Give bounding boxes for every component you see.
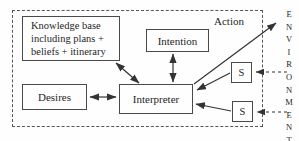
sensor-bottom-label: S (240, 106, 246, 117)
environment-label: ENVIRONMENT (284, 9, 294, 139)
desires-label: Desires (38, 91, 71, 103)
knowledge-base-line1: Knowledge base (31, 19, 101, 32)
bdi-architecture-diagram: Knowledge base including plans + beliefs… (0, 0, 299, 141)
intention-label: Intention (158, 35, 198, 47)
knowledge-base-line2: including plans + (31, 32, 104, 45)
interpreter-label: Interpreter (133, 93, 179, 105)
knowledge-base-box: Knowledge base including plans + beliefs… (22, 16, 120, 61)
sensor-top-box: S (231, 62, 252, 83)
sensor-top-label: S (239, 67, 245, 78)
intention-box: Intention (146, 29, 209, 52)
action-label: Action (214, 15, 244, 27)
knowledge-base-line3: beliefs + itinerary (31, 45, 106, 58)
desires-box: Desires (22, 84, 87, 110)
interpreter-box: Interpreter (119, 84, 193, 114)
sensor-bottom-box: S (232, 101, 253, 122)
